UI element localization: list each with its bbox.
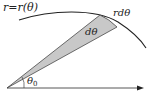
arrow-head-icon: [137, 86, 144, 91]
base-angle-label: θ0: [27, 75, 38, 88]
wedge-angle-label: dθ: [85, 26, 97, 37]
arc-length-label: rdθ: [113, 7, 130, 18]
shaded-wedge: [7, 15, 117, 88]
curve-label: r=r(θ): [3, 1, 38, 14]
polar-area-diagram: r=r(θ) rdθ dθ θ0: [0, 0, 150, 100]
base-angle-subscript: 0: [33, 80, 37, 88]
